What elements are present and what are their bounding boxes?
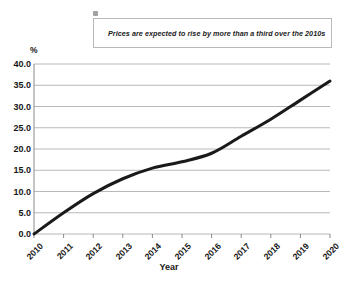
x-axis-title: Year	[0, 262, 338, 272]
